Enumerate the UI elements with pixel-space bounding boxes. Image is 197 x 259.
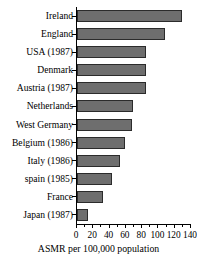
x-axis-tick-major [125, 224, 126, 228]
bar-rows: IrelandEnglandUSA (1987)DenmarkAustria (… [0, 7, 197, 224]
x-axis-tick-label: 100 [150, 229, 164, 241]
y-axis-tick [72, 16, 76, 17]
bar [77, 137, 125, 149]
category-label: Austria (1987) [17, 83, 73, 93]
bar-row: Netherlands [0, 97, 197, 115]
bar [77, 82, 146, 94]
bar [77, 119, 132, 131]
bar-row: Italy (1986) [0, 152, 197, 170]
bar [77, 10, 182, 22]
y-axis-tick [72, 88, 76, 89]
x-axis-tick-major [174, 224, 175, 228]
x-axis-tick-label: 40 [104, 229, 113, 241]
y-axis-tick [72, 178, 76, 179]
x-axis-tick-label: 20 [88, 229, 97, 241]
bar-row: West Germany [0, 116, 197, 134]
category-label: Netherlands [27, 101, 73, 111]
bar-row: Japan (1987) [0, 206, 197, 224]
bar [77, 209, 88, 221]
x-axis-tick-major [157, 224, 158, 228]
x-axis-tick-label: 120 [167, 229, 181, 241]
x-axis-tick-minor [149, 224, 150, 227]
x-axis-tick-minor [133, 224, 134, 227]
x-axis-tick-label: 140 [183, 229, 197, 241]
y-axis-tick [72, 196, 76, 197]
x-axis-tick-major [109, 224, 110, 228]
bar-row: spain (1985) [0, 170, 197, 188]
x-axis-tick-minor [117, 224, 118, 227]
bar [77, 64, 146, 76]
bar [77, 28, 165, 40]
bar [77, 100, 133, 112]
y-axis-tick [72, 70, 76, 71]
bar [77, 46, 146, 58]
category-label: USA (1987) [26, 47, 73, 57]
category-label: Ireland [46, 11, 73, 21]
x-axis-tick-major [76, 224, 77, 228]
bar-row: Denmark [0, 61, 197, 79]
x-axis-tick-labels: 020406080100120140 [0, 229, 197, 242]
x-axis-tick-minor [182, 224, 183, 227]
x-axis-tick-label: 60 [120, 229, 129, 241]
y-axis-tick [72, 142, 76, 143]
bar-row: Ireland [0, 7, 197, 25]
category-label: England [41, 29, 73, 39]
bar-row: Belgium (1986) [0, 134, 197, 152]
bar [77, 173, 112, 185]
x-axis-tick-minor [166, 224, 167, 227]
bar [77, 191, 103, 203]
bar-row: Austria (1987) [0, 79, 197, 97]
x-axis-tick-label: 0 [74, 229, 79, 241]
x-axis-tick-major [190, 224, 191, 228]
bar-row: England [0, 25, 197, 43]
y-axis-tick [72, 34, 76, 35]
category-label: Italy (1986) [27, 156, 73, 166]
category-label: Japan (1987) [23, 210, 73, 220]
bar-row: USA (1987) [0, 43, 197, 61]
y-axis-tick [72, 52, 76, 53]
y-axis-tick [72, 160, 76, 161]
category-label: Belgium (1986) [12, 138, 73, 148]
category-label: Denmark [37, 65, 73, 75]
x-axis-tick-minor [100, 224, 101, 227]
category-label: West Germany [16, 120, 73, 130]
x-axis-tick-major [92, 224, 93, 228]
bar [77, 155, 120, 167]
x-axis-caption: ASMR per 100,000 population [0, 243, 197, 255]
x-axis-tick-minor [84, 224, 85, 227]
x-axis-tick-label: 80 [136, 229, 145, 241]
category-label: spain (1985) [25, 174, 73, 184]
category-label: France [47, 192, 73, 202]
bar-row: France [0, 188, 197, 206]
bar-chart: IrelandEnglandUSA (1987)DenmarkAustria (… [0, 0, 197, 259]
y-axis-tick [72, 124, 76, 125]
y-axis-tick [72, 214, 76, 215]
y-axis-tick [72, 106, 76, 107]
x-axis-tick-major [141, 224, 142, 228]
